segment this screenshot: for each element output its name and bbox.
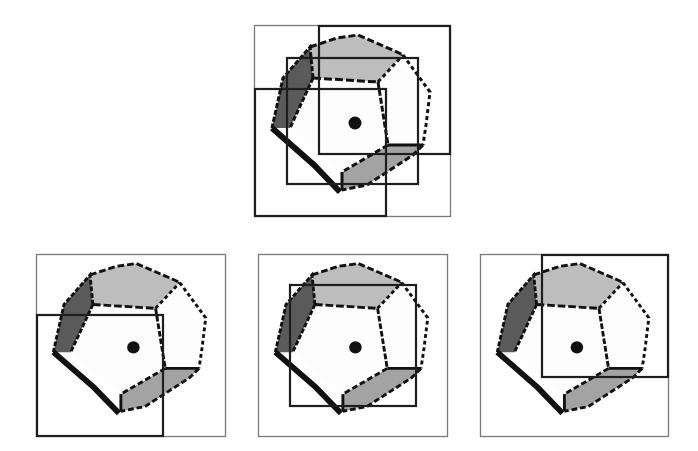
panel-top-composite — [254, 25, 451, 217]
panel-bottom-right-view — [480, 254, 669, 437]
panel-bottom-left-view — [36, 254, 226, 437]
panel-figure — [254, 25, 451, 217]
panel-figure — [480, 254, 669, 437]
dodecahedron-shape — [53, 264, 205, 414]
panel-figure — [36, 254, 226, 437]
dodecahedron-shape — [497, 264, 649, 414]
panel-bottom-center-view — [258, 254, 448, 437]
panel-figure — [258, 254, 448, 437]
